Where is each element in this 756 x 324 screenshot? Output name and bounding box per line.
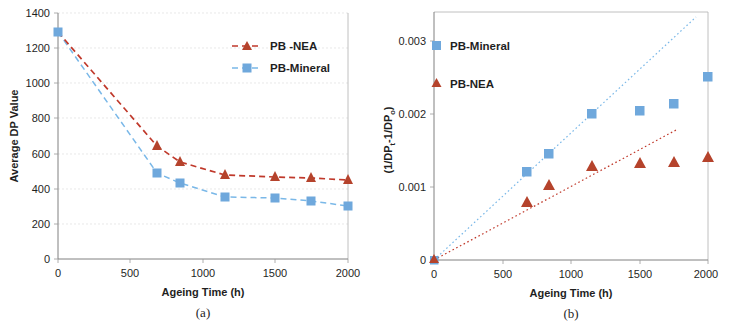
chart-a-xtick-1500: 1500 xyxy=(263,267,287,279)
chart-a-xtick-500: 500 xyxy=(121,267,139,279)
chart-b-ylabel-pre: (1/DP xyxy=(382,145,394,173)
chart-a-panel-label: (a) xyxy=(196,305,210,320)
chart-b-xtick-1000: 1000 xyxy=(559,268,583,280)
chart-a-ytick-800: 800 xyxy=(32,112,50,124)
chart-a-x-ticks xyxy=(58,259,348,263)
chart-b-x-axis-title: Ageing Time (h) xyxy=(530,287,613,299)
chart-a-legend-label-pb-mineral: PB-Mineral xyxy=(270,62,330,74)
chart-b-trendline-pb-mineral xyxy=(434,17,696,260)
chart-a-y-ticks xyxy=(54,13,58,259)
chart-a-series-pb-nea-markers xyxy=(152,140,353,184)
chart-b-ylabel-post: ) xyxy=(382,106,394,110)
chart-b-xtick-0: 0 xyxy=(431,268,437,280)
chart-b-legend-label-pb-mineral: PB-Mineral xyxy=(450,40,510,52)
chart-a-series-pb-nea-line xyxy=(58,32,348,180)
chart-a-x-axis-title: Ageing Time (h) xyxy=(162,286,245,298)
chart-b-legend: PB-Mineral PB-NEA xyxy=(432,40,511,90)
chart-a-series-pb-mineral-line xyxy=(58,32,348,206)
chart-a-xtick-0: 0 xyxy=(55,267,61,279)
chart-b-series-pb-mineral-markers xyxy=(430,72,713,265)
chart-b-xtick-500: 500 xyxy=(494,268,512,280)
chart-a-ytick-1000: 1000 xyxy=(26,77,50,89)
chart-panel-b: 0.003 0.002 0.001 0 0 500 1000 1500 2000… xyxy=(378,0,756,324)
chart-a-svg: 1400 1200 1000 800 600 400 200 0 0 500 1… xyxy=(0,0,378,324)
chart-a-legend: PB -NEA PB-Mineral xyxy=(232,40,330,74)
chart-a-ytick-0: 0 xyxy=(44,253,50,265)
chart-a-ytick-1200: 1200 xyxy=(26,42,50,54)
chart-b-ytick-0003: 0.003 xyxy=(398,35,426,47)
chart-a-ytick-600: 600 xyxy=(32,148,50,160)
chart-b-y-ticks xyxy=(430,41,434,260)
chart-b-ylabel-mid: -1/DP xyxy=(382,115,394,143)
chart-b-x-ticks xyxy=(434,260,708,264)
chart-b-series-pb-nea-markers xyxy=(429,151,714,263)
chart-panel-a: 1400 1200 1000 800 600 400 200 0 0 500 1… xyxy=(0,0,378,324)
chart-a-ytick-200: 200 xyxy=(32,218,50,230)
chart-b-legend-label-pb-nea: PB-NEA xyxy=(450,78,494,90)
chart-a-ytick-400: 400 xyxy=(32,183,50,195)
chart-a-xtick-2000: 2000 xyxy=(336,267,360,279)
chart-a-legend-label-pb-nea: PB -NEA xyxy=(270,40,317,52)
chart-b-svg: 0.003 0.002 0.001 0 0 500 1000 1500 2000… xyxy=(378,0,756,324)
chart-a-y-axis-title: Average DP Value xyxy=(8,90,20,183)
figure-container: 1400 1200 1000 800 600 400 200 0 0 500 1… xyxy=(0,0,756,324)
chart-b-ytick-0002: 0.002 xyxy=(398,108,426,120)
chart-b-xtick-1500: 1500 xyxy=(628,268,652,280)
chart-a-xtick-1000: 1000 xyxy=(191,267,215,279)
svg-text:(1/DPt-1/DPo): (1/DPt-1/DPo) xyxy=(382,106,397,173)
chart-b-ytick-0: 0 xyxy=(420,254,426,266)
chart-a-ytick-1400: 1400 xyxy=(26,7,50,19)
chart-b-panel-label: (b) xyxy=(563,306,578,321)
chart-b-trendline-pb-nea xyxy=(434,129,678,260)
chart-a-series-pb-mineral-markers xyxy=(54,28,353,211)
chart-b-xtick-2000: 2000 xyxy=(694,268,718,280)
chart-b-y-axis-title: (1/DPt-1/DPo) xyxy=(382,106,397,173)
chart-b-ytick-0001: 0.001 xyxy=(398,181,426,193)
